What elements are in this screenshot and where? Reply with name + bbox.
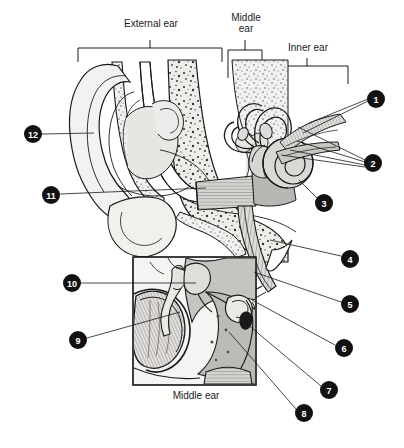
callout-11-number: 11 [46,191,56,201]
callout-11[interactable]: 11 [42,186,60,204]
callout-7[interactable]: 7 [320,381,338,399]
leader-1-b [303,101,368,133]
leader-3 [299,180,317,198]
callout-6[interactable]: 6 [335,339,353,357]
inset-caption-middle-ear: Middle ear [140,390,252,401]
callout-4[interactable]: 4 [341,250,359,268]
label-middle-ear-line2: ear [222,23,270,34]
callout-12[interactable]: 12 [24,125,42,143]
diagram-canvas: 1 2 3 4 5 6 7 8 [0,0,404,448]
callout-10[interactable]: 10 [63,274,81,292]
callout-9-number: 9 [75,336,80,346]
callout-1-number: 1 [373,95,378,105]
callout-10-number: 10 [67,279,77,289]
callout-2-number: 2 [370,159,375,169]
callout-7-number: 7 [326,386,331,396]
label-external-ear: External ear [96,18,206,29]
callout-3-number: 3 [321,199,326,209]
callout-5[interactable]: 5 [341,295,359,313]
callout-8-number: 8 [301,409,306,419]
label-middle-ear-line1: Middle [222,12,270,23]
tympanic-membrane-main [196,176,256,210]
callout-8[interactable]: 8 [295,404,313,422]
callout-3[interactable]: 3 [315,194,333,212]
bracket-external-ear [78,40,222,62]
inset-middle-ear [133,257,259,385]
callout-12-number: 12 [28,130,38,140]
callout-9[interactable]: 9 [69,331,87,349]
label-middle-ear: Middle ear [222,12,270,34]
callout-5-number: 5 [347,300,352,310]
callout-1[interactable]: 1 [367,90,385,108]
callout-6-number: 6 [341,344,346,354]
label-inner-ear: Inner ear [268,42,348,53]
callout-2[interactable]: 2 [364,154,382,172]
ear-anatomy-diagram: 1 2 3 4 5 6 7 8 [0,0,404,448]
callout-4-number: 4 [347,255,352,265]
